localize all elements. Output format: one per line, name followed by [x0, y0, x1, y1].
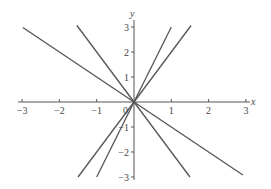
y-axis-label: y: [129, 8, 135, 19]
y-tick-label: −3: [118, 172, 129, 183]
x-axis-label: x: [250, 96, 256, 107]
x-tick-label: −3: [17, 105, 28, 116]
plot-lines: [23, 26, 243, 178]
y-tick-label: −2: [118, 147, 129, 158]
y-tick-label: 1: [124, 72, 129, 83]
line-chart: −3−2−1123−3−2−1123 x y 0: [0, 0, 271, 189]
series-line: [77, 26, 190, 178]
x-tick-label: −1: [91, 105, 102, 116]
y-tick-label: −1: [118, 122, 129, 133]
y-tick-label: 3: [124, 22, 129, 33]
x-tick-label: 2: [206, 105, 211, 116]
y-tick-label: 2: [124, 47, 129, 58]
series-line: [78, 26, 191, 178]
x-tick-label: −2: [54, 105, 65, 116]
x-tick-label: 3: [243, 105, 248, 116]
x-tick-label: 1: [169, 105, 174, 116]
origin-label: 0: [123, 105, 128, 116]
